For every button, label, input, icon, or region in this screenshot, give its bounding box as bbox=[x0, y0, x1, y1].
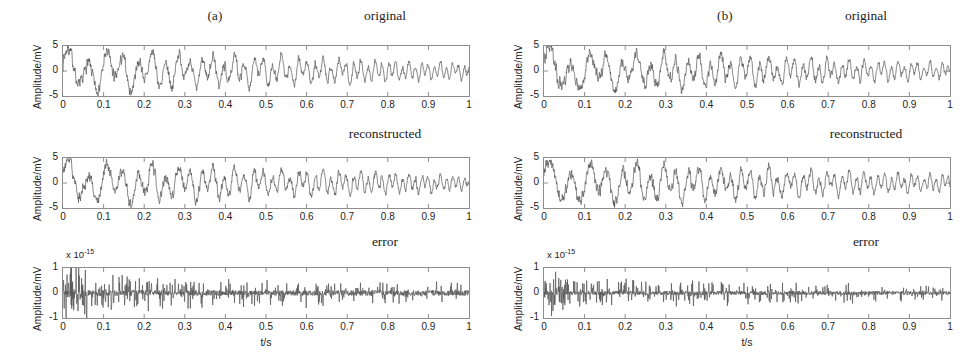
exponent-base: x 10 bbox=[66, 249, 84, 260]
x-tick-label: 0.8 bbox=[854, 321, 884, 332]
x-tick-label: 0.9 bbox=[894, 321, 924, 332]
exponent-base: x 10 bbox=[547, 249, 565, 260]
x-tick-label: 0.3 bbox=[170, 321, 200, 332]
x-tick-label: 1 bbox=[935, 321, 962, 332]
y-tick-label: 1 bbox=[36, 261, 58, 272]
x-axis-label-b-error: t/s bbox=[717, 336, 777, 348]
x-tick-label: 0.9 bbox=[413, 321, 443, 332]
trace-svg-b-error bbox=[544, 268, 950, 318]
subplot-a-error: errorAmplitude/mVx 10-1510-100.10.20.30.… bbox=[0, 0, 481, 354]
exponent-power: -15 bbox=[565, 248, 575, 255]
x-tick-label: 0.6 bbox=[773, 321, 803, 332]
y-tick-label: 0 bbox=[36, 286, 58, 297]
axes-a-error bbox=[62, 267, 470, 319]
x-tick-label: 0.7 bbox=[813, 321, 843, 332]
x-tick-label: 0.4 bbox=[210, 321, 240, 332]
exponent-label-b-error: x 10-15 bbox=[547, 248, 575, 260]
subplot-title-a-error: error bbox=[285, 234, 485, 250]
x-tick-label: 0.5 bbox=[251, 321, 281, 332]
exponent-label-a-error: x 10-15 bbox=[66, 248, 94, 260]
x-tick-label: 0.7 bbox=[332, 321, 362, 332]
panel-a: (a)originalAmplitude/mV50-500.10.20.30.4… bbox=[0, 0, 481, 354]
data-trace bbox=[544, 272, 950, 316]
panel-b: (b)originalAmplitude/mV50-500.10.20.30.4… bbox=[481, 0, 962, 354]
x-tick-label: 0.2 bbox=[610, 321, 640, 332]
x-tick-label: 0.8 bbox=[373, 321, 403, 332]
exponent-power: -15 bbox=[84, 248, 94, 255]
x-tick-label: 0.3 bbox=[651, 321, 681, 332]
figure-root: (a)originalAmplitude/mV50-500.10.20.30.4… bbox=[0, 0, 962, 354]
y-tick-label: 0 bbox=[517, 286, 539, 297]
x-tick-label: 0 bbox=[529, 321, 559, 332]
subplot-title-b-error: error bbox=[766, 234, 962, 250]
x-tick-label: 0.6 bbox=[292, 321, 322, 332]
x-tick-label: 0.5 bbox=[732, 321, 762, 332]
data-trace bbox=[63, 268, 469, 318]
x-tick-label: 1 bbox=[454, 321, 484, 332]
y-tick-label: 1 bbox=[517, 261, 539, 272]
x-axis-label-a-error: t/s bbox=[236, 336, 296, 348]
axes-b-error bbox=[543, 267, 951, 319]
subplot-b-error: errorAmplitude/mVx 10-1510-100.10.20.30.… bbox=[481, 0, 962, 354]
x-tick-label: 0 bbox=[48, 321, 78, 332]
x-tick-label: 0.1 bbox=[570, 321, 600, 332]
x-tick-label: 0.1 bbox=[89, 321, 119, 332]
x-tick-label: 0.4 bbox=[691, 321, 721, 332]
trace-svg-a-error bbox=[63, 268, 469, 318]
x-tick-label: 0.2 bbox=[129, 321, 159, 332]
